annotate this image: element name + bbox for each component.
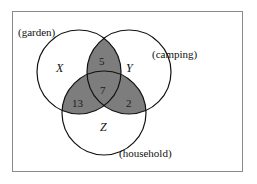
set-letter-y: Y bbox=[126, 62, 133, 74]
set-context-label-garden: (garden) bbox=[18, 27, 55, 38]
venn-diagram-figure: (garden) (camping) (household) X Y Z 5 7… bbox=[0, 0, 257, 184]
region-count-y-and-z: 2 bbox=[126, 98, 132, 109]
region-count-x-and-y-and-z: 7 bbox=[100, 85, 106, 96]
set-context-label-household: (household) bbox=[119, 148, 172, 159]
set-letter-z: Z bbox=[100, 121, 107, 133]
region-count-x-and-y: 5 bbox=[99, 56, 105, 67]
set-context-label-camping: (camping) bbox=[152, 49, 197, 60]
region-count-x-and-z: 13 bbox=[72, 98, 83, 109]
set-letter-x: X bbox=[56, 62, 63, 74]
